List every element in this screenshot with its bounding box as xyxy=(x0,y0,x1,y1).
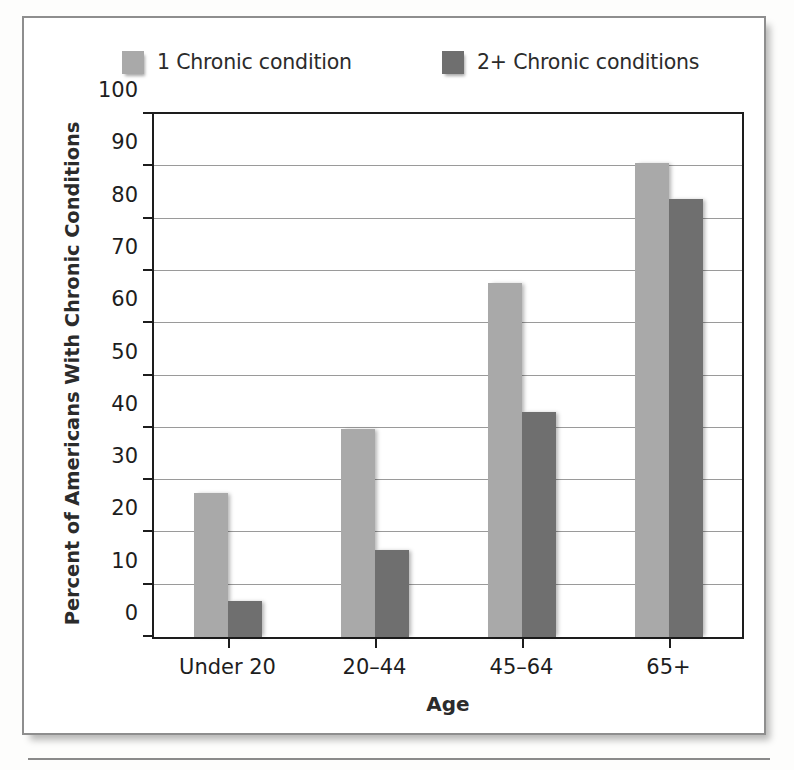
x-tick xyxy=(522,637,524,648)
plot-area: 0102030405060708090100 Under 2020–4445–6… xyxy=(152,112,744,639)
bar-group xyxy=(448,114,595,637)
y-tick-label: 90 xyxy=(111,130,138,154)
y-axis-title-text: Percent of Americans With Chronic Condit… xyxy=(62,122,85,626)
bars-group xyxy=(154,114,742,637)
y-tick xyxy=(143,217,154,219)
x-tick xyxy=(669,637,671,648)
plot-wrapper: Percent of Americans With Chronic Condit… xyxy=(24,18,768,737)
bar xyxy=(488,283,522,637)
y-tick-label: 100 xyxy=(98,78,138,102)
bar xyxy=(375,550,409,637)
y-tick-label: 10 xyxy=(111,549,138,573)
bar-group xyxy=(595,114,742,637)
y-tick xyxy=(143,583,154,585)
bar xyxy=(669,199,703,637)
x-tick xyxy=(228,637,230,648)
y-tick-label: 30 xyxy=(111,444,138,468)
bar xyxy=(635,163,669,637)
chart-panel: 1 Chronic condition 2+ Chronic condition… xyxy=(22,16,766,735)
bar xyxy=(522,412,556,637)
y-tick xyxy=(143,164,154,166)
y-tick-label: 20 xyxy=(111,496,138,520)
bar xyxy=(228,601,262,637)
y-tick-label: 40 xyxy=(111,392,138,416)
chart-figure: 1 Chronic condition 2+ Chronic condition… xyxy=(0,0,794,770)
bar-group xyxy=(154,114,301,637)
x-axis-title: Age xyxy=(154,692,742,716)
y-tick xyxy=(143,321,154,323)
x-tick-label: 65+ xyxy=(646,655,690,679)
y-tick xyxy=(143,374,154,376)
y-axis-title: Percent of Americans With Chronic Condit… xyxy=(60,112,86,635)
y-tick-label: 50 xyxy=(111,340,138,364)
y-tick xyxy=(143,635,154,637)
y-tick-label: 0 xyxy=(125,601,138,625)
y-tick xyxy=(143,530,154,532)
bar xyxy=(194,493,228,637)
y-tick xyxy=(143,112,154,114)
x-tick-label: Under 20 xyxy=(179,655,276,679)
y-tick-label: 60 xyxy=(111,287,138,311)
x-tick xyxy=(375,637,377,648)
y-tick-label: 80 xyxy=(111,183,138,207)
y-tick xyxy=(143,269,154,271)
x-tick-label: 45–64 xyxy=(490,655,554,679)
y-tick xyxy=(143,478,154,480)
y-tick-label: 70 xyxy=(111,235,138,259)
bar-group xyxy=(301,114,448,637)
bar xyxy=(341,429,375,637)
y-tick xyxy=(143,426,154,428)
footer-rule xyxy=(28,758,770,760)
x-tick-label: 20–44 xyxy=(343,655,407,679)
